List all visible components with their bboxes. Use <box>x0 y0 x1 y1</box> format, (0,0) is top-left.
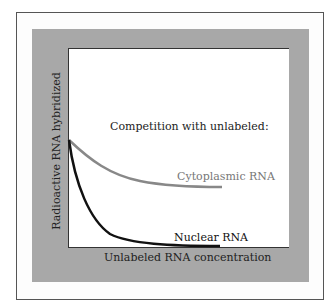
figure: Competition with unlabeled: Cytoplasmic … <box>0 0 336 307</box>
chart-title: Competition with unlabeled: <box>110 121 269 132</box>
y-axis-label: Radioactive RNA hybridized <box>51 69 63 233</box>
cytoplasmic-rna-label: Cytoplasmic RNA <box>177 171 275 182</box>
x-axis-label: Unlabeled RNA concentration <box>104 252 271 263</box>
nuclear-rna-label: Nuclear RNA <box>174 232 248 243</box>
